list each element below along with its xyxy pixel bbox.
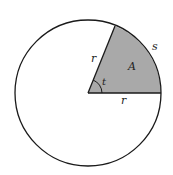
label-radius-lower: r <box>121 94 127 107</box>
shaded-sector <box>88 26 161 93</box>
label-area: A <box>127 60 136 73</box>
label-arc: s <box>152 40 158 53</box>
sector-diagram: r r A s t <box>0 0 173 175</box>
label-radius-upper: r <box>91 52 97 65</box>
